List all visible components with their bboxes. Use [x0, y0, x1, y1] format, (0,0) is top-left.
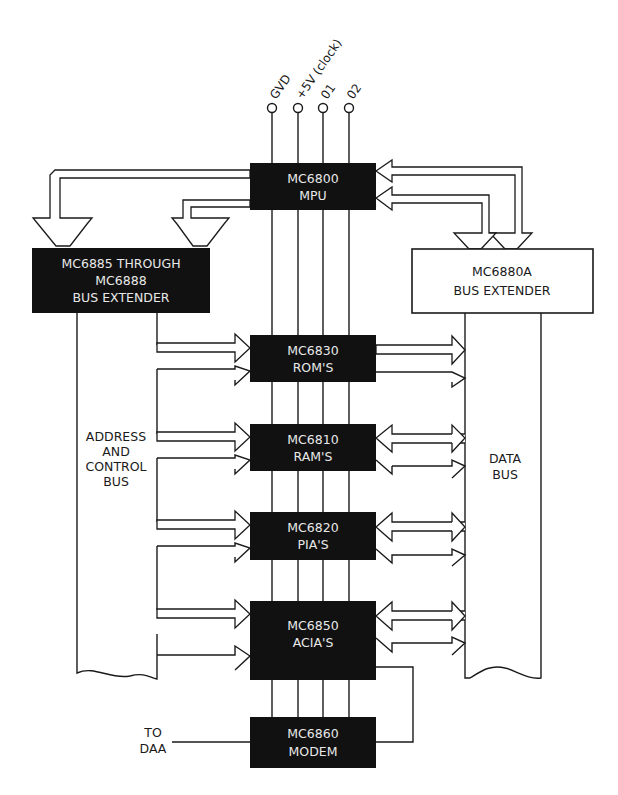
- chip-mpu-line1: MC6800: [287, 171, 338, 186]
- chip-pia-line1: MC6820: [287, 520, 338, 535]
- chip-address-extender-line3: BUS EXTENDER: [73, 290, 170, 305]
- chip-address-extender-line1: MC6885 THROUGH: [61, 256, 180, 271]
- chip-data-extender: MC6880A BUS EXTENDER: [412, 249, 593, 313]
- chip-modem: MC6860 MODEM: [250, 717, 376, 768]
- chip-address-extender-line2: MC6888: [95, 273, 146, 288]
- daa-label-line2: DAA: [140, 741, 167, 756]
- pin-phi2: 02: [344, 81, 364, 112]
- chip-data-extender-line2: BUS EXTENDER: [454, 283, 551, 298]
- chip-mpu-line2: MPU: [299, 188, 326, 203]
- chip-acia-line2: ACIA'S: [293, 635, 334, 650]
- chip-ram-line1: MC6810: [287, 432, 338, 447]
- data-bus-label-line1: DATA: [489, 451, 522, 466]
- chip-address-extender: MC6885 THROUGH MC6888 BUS EXTENDER: [32, 248, 210, 313]
- data-bus-label: DATA BUS: [489, 451, 522, 482]
- mpu-to-data-extender-bus: [376, 160, 532, 249]
- chip-rom-line1: MC6830: [287, 343, 338, 358]
- chip-pia-line2: PIA'S: [297, 537, 328, 552]
- pin-gnd: GVD: [267, 72, 294, 113]
- address-control-bus: [77, 313, 157, 679]
- data-bus-label-line2: BUS: [492, 467, 518, 482]
- pin-phi1: 01: [318, 81, 338, 112]
- mpu-to-address-extender-bus: [33, 170, 250, 246]
- address-bus-label-line3: CONTROL: [85, 459, 146, 474]
- chip-data-extender-line1: MC6880A: [472, 264, 532, 279]
- chip-acia: MC6850 ACIA'S: [250, 601, 376, 680]
- address-bus-label-line1: ADDRESS: [86, 429, 146, 444]
- chip-rom: MC6830 ROM'S: [250, 335, 376, 382]
- chip-ram-line2: RAM'S: [294, 449, 333, 464]
- data-bus-taps: [376, 336, 465, 655]
- pin-phi1-label: 01: [318, 81, 338, 102]
- address-bus-taps: [157, 334, 250, 670]
- mc6800-system-diagram: GVD +5V (clock) 01 02: [0, 0, 618, 795]
- chip-mpu: MC6800 MPU: [250, 163, 376, 210]
- chip-ram: MC6810 RAM'S: [250, 424, 376, 471]
- daa-label-line1: TO: [143, 725, 162, 740]
- chip-modem-line1: MC6860: [287, 726, 338, 741]
- pin-vcc: +5V (clock): [293, 36, 345, 112]
- chip-acia-line1: MC6850: [287, 618, 338, 633]
- chip-pia: MC6820 PIA'S: [250, 512, 376, 560]
- power-clock-pins: GVD +5V (clock) 01 02: [267, 36, 364, 112]
- data-bus: [465, 313, 541, 678]
- pin-phi2-label: 02: [344, 81, 364, 102]
- address-bus-label: ADDRESS AND CONTROL BUS: [85, 429, 146, 489]
- chip-rom-line2: ROM'S: [293, 360, 334, 375]
- pin-gnd-label: GVD: [267, 72, 294, 102]
- daa-label: TO DAA: [140, 725, 167, 756]
- address-bus-label-line2: AND: [102, 444, 130, 459]
- address-bus-label-line4: BUS: [103, 474, 129, 489]
- chip-modem-line2: MODEM: [289, 744, 338, 759]
